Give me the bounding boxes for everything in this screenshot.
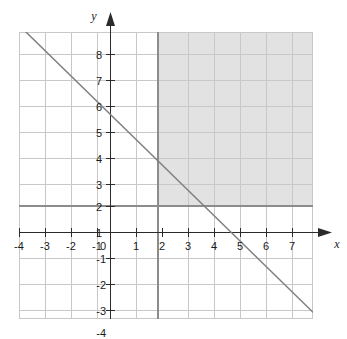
- y-axis: [106, 12, 115, 319]
- x-tick-label: 1: [133, 240, 139, 252]
- x-tick-label: -2: [66, 240, 76, 252]
- y-tick-label: 8: [96, 49, 102, 61]
- y-axis-label: y: [90, 9, 97, 23]
- y-tick-label: 1: [96, 227, 102, 239]
- y-tick-label: 6: [96, 101, 102, 113]
- y-tick-label: 4: [96, 153, 102, 165]
- x-axis-label: x: [333, 237, 340, 251]
- x-tick-label: 6: [263, 240, 269, 252]
- y-axis-arrow-icon: [106, 12, 115, 26]
- shaded-solution-region: [158, 32, 313, 206]
- x-axis: [19, 228, 332, 237]
- graph-canvas: 8 7 6 5 4 3 2 1 -1 -2 -3 -4 -4 -3 -2 -1 …: [0, 0, 347, 339]
- y-tick-label: -1: [96, 253, 106, 265]
- y-tick-label: -3: [96, 305, 106, 317]
- y-tick-label: 5: [96, 127, 102, 139]
- x-tick-label: -3: [40, 240, 50, 252]
- y-tick-label: 3: [96, 179, 102, 191]
- origin-label: 0: [100, 240, 106, 252]
- x-tick-label: -4: [14, 240, 24, 252]
- y-tick-label: 2: [96, 201, 102, 213]
- x-tick-label: 2: [159, 240, 165, 252]
- x-tick-label: 7: [289, 240, 295, 252]
- x-tick-label: 4: [211, 240, 217, 252]
- y-tick-label: -2: [96, 279, 106, 291]
- x-tick-label: 3: [185, 240, 191, 252]
- x-tick-label: 5: [237, 240, 243, 252]
- coordinate-plane-graph: 8 7 6 5 4 3 2 1 -1 -2 -3 -4 -4 -3 -2 -1 …: [0, 0, 347, 339]
- x-axis-arrow-icon: [318, 228, 332, 237]
- x-axis-tick-labels: -4 -3 -2 -1 1 2 3 4 5 6 7: [14, 240, 295, 252]
- y-tick-label: -4: [96, 327, 106, 339]
- y-tick-label: 7: [96, 75, 102, 87]
